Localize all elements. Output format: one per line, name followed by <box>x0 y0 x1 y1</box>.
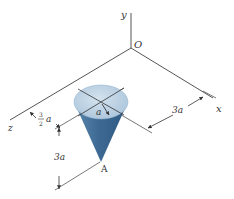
x-dim-line-a <box>148 115 173 128</box>
x-axis <box>131 48 213 98</box>
x-dim-tick <box>203 91 216 98</box>
apex-label: A <box>100 164 108 174</box>
x-axis-label: x <box>216 103 222 114</box>
y-axis-label: y <box>120 9 127 20</box>
apex-extension <box>55 162 100 190</box>
origin-label: O <box>134 39 142 50</box>
z-axis-label: z <box>7 123 13 133</box>
z-offset-var: a <box>46 114 51 124</box>
radius-label: a <box>96 107 101 117</box>
height-label: 3a <box>54 152 65 162</box>
x-dim-line-b <box>188 97 203 106</box>
diagram-canvas: y O x z a A 3a 3 2 a 3a <box>0 0 234 199</box>
cone-diagram: y O x z a A 3a 3 2 a 3a <box>0 0 234 199</box>
z-dim-arrow <box>30 112 36 118</box>
z-offset-denominator: 2 <box>39 120 43 127</box>
z-offset-numerator: 3 <box>39 111 43 118</box>
x-offset-label: 3a <box>172 105 183 115</box>
